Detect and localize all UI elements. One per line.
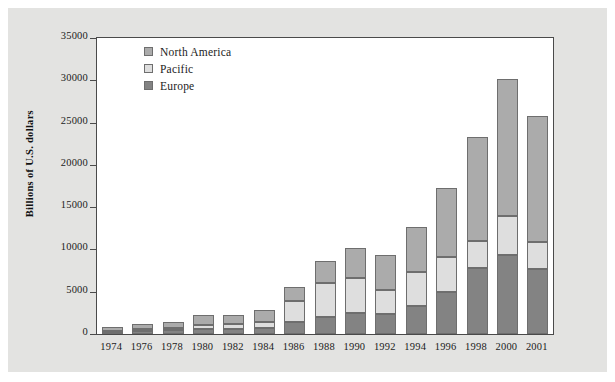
bar-segment-na [467,137,488,241]
bar-segment-na [527,116,548,242]
y-axis-tick [90,207,97,208]
x-axis-tick-label: 2001 [513,341,561,352]
bar-segment-europe [406,306,427,334]
legend-item: Europe [144,78,231,93]
bar-segment-pacific [406,272,427,305]
bar-segment-europe [254,328,275,334]
bar-1994 [406,227,427,334]
bar-segment-europe [345,313,366,334]
bar-segment-pacific [284,301,305,322]
bar-segment-pacific [254,322,275,328]
bar-segment-europe [102,332,123,334]
y-axis-tick-label: 35000 [40,30,88,41]
legend-swatch-europe [144,81,153,90]
bar-1974 [102,327,123,334]
bar-segment-na [163,322,184,328]
bar-2001 [527,116,548,334]
y-axis-tick-label: 30000 [40,72,88,83]
bar-segment-europe [527,269,548,334]
bar-1976 [132,324,153,334]
bar-segment-europe [497,255,518,334]
bar-1990 [345,248,366,334]
y-axis-tick [90,165,97,166]
bar-2000 [497,79,518,334]
bar-segment-europe [223,329,244,334]
bar-segment-na [375,255,396,291]
bar-segment-europe [284,322,305,334]
bar-segment-pacific [345,278,366,314]
bar-segment-europe [193,329,214,334]
bar-segment-pacific [497,216,518,255]
bar-segment-pacific [223,324,244,329]
bar-1998 [467,137,488,334]
bar-segment-pacific [375,290,396,314]
bar-1980 [193,315,214,334]
bar-segment-europe [163,330,184,334]
bar-segment-na [497,79,518,216]
bar-segment-pacific [132,329,153,331]
chart-figure: Billions of U.S. dollars 050001000015000… [0,0,615,382]
bar-segment-europe [375,314,396,334]
bar-segment-pacific [163,328,184,331]
bar-segment-pacific [315,283,336,317]
bar-segment-na [284,287,305,301]
bar-segment-na [193,315,214,325]
bar-segment-na [223,315,244,325]
bar-segment-pacific [467,241,488,268]
bar-segment-europe [132,331,153,334]
bar-segment-pacific [436,257,457,292]
bar-1992 [375,255,396,334]
legend-label: Europe [160,80,194,92]
bar-1984 [254,310,275,334]
legend-item: North America [144,44,231,59]
bar-segment-europe [315,317,336,334]
y-axis-tick [90,292,97,293]
bar-segment-na [406,227,427,272]
y-axis-tick-label: 5000 [40,284,88,295]
bar-segment-na [102,327,123,331]
y-axis-tick [90,249,97,250]
y-axis-tick [90,334,97,335]
y-axis-tick-label: 25000 [40,115,88,126]
y-axis-tick-label: 10000 [40,241,88,252]
bar-segment-na [132,324,153,329]
legend-item: Pacific [144,61,231,76]
bar-segment-pacific [193,325,214,329]
y-axis-tick-label: 0 [40,326,88,337]
bar-1982 [223,315,244,334]
bar-segment-na [315,261,336,283]
y-axis-tick-label: 20000 [40,157,88,168]
y-axis-tick [90,38,97,39]
y-axis-tick [90,80,97,81]
bar-segment-europe [436,292,457,334]
legend-swatch-na [144,47,153,56]
bar-segment-na [254,310,275,322]
y-axis-tick [90,123,97,124]
bar-segment-na [345,248,366,278]
legend-label: North America [160,46,231,58]
bar-segment-pacific [527,242,548,269]
bar-segment-na [436,188,457,257]
legend-swatch-pacific [144,64,153,73]
bar-1986 [284,287,305,334]
y-axis-title: Billions of U.S. dollars [24,110,40,217]
bar-segment-europe [467,268,488,334]
bar-1988 [315,261,336,334]
y-axis-tick-label: 15000 [40,199,88,210]
bar-1996 [436,188,457,334]
legend: North AmericaPacificEurope [144,44,231,95]
legend-label: Pacific [160,63,193,75]
bar-1978 [163,322,184,334]
